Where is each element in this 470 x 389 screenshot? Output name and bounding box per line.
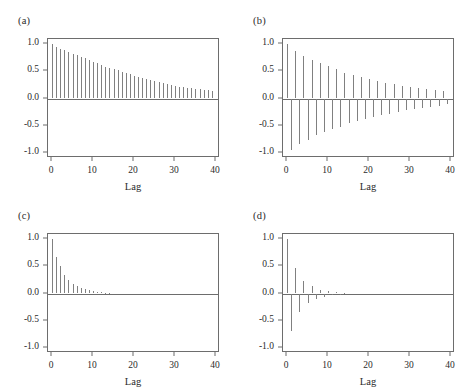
acf-bar — [150, 80, 151, 98]
acf-bar — [381, 99, 382, 116]
acf-bar — [336, 69, 337, 98]
acf-bar — [163, 83, 164, 98]
acf-bar — [60, 49, 61, 99]
acf-bar — [406, 99, 407, 111]
x-tick-label: 40 — [445, 166, 455, 176]
y-tick-label: -1.0 — [24, 147, 39, 157]
acf-bar — [208, 90, 209, 98]
acf-bar — [175, 86, 176, 98]
x-axis-title-b: Lag — [360, 182, 376, 193]
acf-bar — [287, 239, 288, 293]
x-tick-label: 40 — [445, 361, 455, 371]
acf-bar — [410, 87, 411, 98]
x-axis-b: Lag 010203040 — [282, 157, 454, 194]
acf-bar — [344, 73, 345, 99]
plot-area-b — [282, 38, 454, 157]
acf-bar — [73, 54, 74, 99]
x-tick-label: 10 — [322, 361, 332, 371]
acf-bar — [418, 88, 419, 98]
x-tick-label: 40 — [210, 361, 220, 371]
acf-bar — [385, 83, 386, 99]
y-tick-label: -0.5 — [259, 315, 274, 325]
acf-bars-b — [283, 39, 453, 156]
acf-bar — [200, 89, 201, 98]
x-tick-mark — [286, 157, 287, 161]
x-tick-label: 40 — [210, 166, 220, 176]
acf-bar — [134, 76, 135, 99]
acf-panel-d: (d) 1.00.50.0-0.5-1.0 Lag 010203040 — [235, 195, 470, 389]
acf-bar — [154, 81, 155, 98]
y-tick-label: 0.0 — [27, 288, 39, 298]
x-tick-label: 30 — [169, 166, 179, 176]
acf-bar — [295, 51, 296, 99]
x-tick-label: 30 — [404, 361, 414, 371]
acf-bar — [68, 280, 69, 294]
x-tick-mark — [51, 352, 52, 356]
acf-bar — [60, 266, 61, 293]
acf-bar — [336, 292, 337, 293]
acf-bar — [73, 284, 74, 294]
x-tick-label: 20 — [363, 361, 373, 371]
x-tick-mark — [408, 352, 409, 356]
acf-bar — [303, 56, 304, 99]
acf-bar — [402, 86, 403, 98]
acf-panel-a: (a) 1.00.50.0-0.5-1.0 Lag 010203040 — [0, 0, 235, 194]
y-tick-label: 0.5 — [262, 261, 274, 271]
y-axis-b: 1.00.50.0-0.5-1.0 — [235, 0, 282, 194]
acf-bar — [320, 290, 321, 294]
x-axis-title-a: Lag — [125, 182, 141, 193]
x-tick-label: 20 — [128, 361, 138, 371]
acf-bar — [93, 62, 94, 99]
x-tick-label: 10 — [87, 361, 97, 371]
acf-bar — [312, 286, 313, 293]
x-tick-mark — [449, 157, 450, 161]
x-tick-mark — [92, 352, 93, 356]
acf-bar — [126, 73, 127, 98]
acf-bar — [85, 289, 86, 293]
acf-bar — [299, 294, 300, 313]
y-tick-label: 1.0 — [27, 39, 39, 49]
acf-bar — [68, 52, 69, 99]
acf-bar — [146, 79, 147, 98]
acf-bar — [328, 291, 329, 293]
acf-bar — [361, 77, 362, 99]
x-tick-mark — [368, 352, 369, 356]
acf-bar — [109, 68, 110, 99]
acf-bar — [308, 294, 309, 304]
acf-bar — [56, 257, 57, 294]
x-axis-title-d: Lag — [360, 377, 376, 388]
x-tick-mark — [51, 157, 52, 161]
x-tick-mark — [173, 352, 174, 356]
acf-bar — [52, 239, 53, 293]
y-tick-label: 1.0 — [262, 234, 274, 244]
y-tick-label: -0.5 — [259, 120, 274, 130]
y-axis-c: 1.00.50.0-0.5-1.0 — [0, 195, 47, 389]
acf-bar — [64, 50, 65, 98]
acf-bar — [324, 294, 325, 297]
x-tick-mark — [214, 352, 215, 356]
acf-bar — [439, 99, 440, 107]
acf-bar — [109, 293, 110, 294]
x-tick-label: 10 — [87, 166, 97, 176]
acf-bar — [316, 294, 317, 299]
acf-bar — [430, 99, 431, 108]
plot-area-a — [47, 38, 219, 157]
acf-bar — [369, 79, 370, 98]
acf-bar — [299, 99, 300, 145]
acf-bar — [179, 87, 180, 99]
acf-bar — [183, 87, 184, 98]
acf-bar — [377, 81, 378, 99]
acf-bar — [122, 72, 123, 99]
y-tick-label: 0.5 — [27, 66, 39, 76]
acf-bar — [312, 60, 313, 98]
acf-bar — [414, 99, 415, 110]
acf-bar — [291, 99, 292, 150]
x-axis-title-c: Lag — [125, 377, 141, 388]
acf-figure-grid: (a) 1.00.50.0-0.5-1.0 Lag 010203040 (b) … — [0, 0, 470, 389]
acf-bar — [138, 77, 139, 99]
acf-bar — [332, 294, 333, 296]
x-tick-mark — [449, 352, 450, 356]
y-tick-label: 0.5 — [27, 261, 39, 271]
acf-bar — [320, 63, 321, 98]
y-axis-a: 1.00.50.0-0.5-1.0 — [0, 0, 47, 194]
